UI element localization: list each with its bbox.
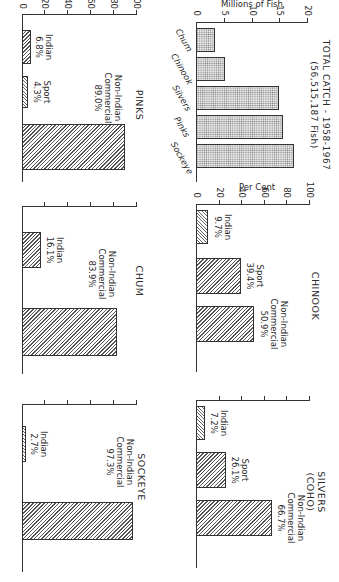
bar-chinook [196, 57, 225, 81]
tick-label: 20 [215, 176, 225, 198]
bar-chum [196, 28, 215, 52]
bar-sport [196, 258, 241, 294]
chum-title: CHUM [134, 236, 145, 326]
tick-label: 0 [192, 0, 202, 16]
tick-60 [264, 396, 265, 401]
tick-60 [264, 200, 265, 205]
bar-sockeye [196, 144, 294, 168]
category-label-sockeye: Sockeye [168, 138, 197, 178]
tick-label: 80 [282, 176, 292, 198]
tick-60 [90, 202, 91, 207]
y-axis [22, 206, 137, 207]
label-indian: Indian 9.7% [213, 206, 233, 248]
bar-sport [196, 452, 226, 488]
tick-20 [219, 396, 220, 401]
tick-label: 0 [18, 0, 28, 9]
bar-indian [196, 406, 205, 440]
tick-label: 100 [132, 0, 142, 9]
label-non-indian-commercial: Non-Indian Commercial 50.9% [259, 296, 289, 352]
label-non-indian-commercial: Non-Indian Commercial 97.3% [105, 434, 135, 490]
tick-60 [90, 400, 91, 405]
bar-silvers [196, 86, 279, 110]
bar-sport [22, 76, 28, 108]
tick-20 [44, 202, 45, 207]
tick-40 [241, 396, 242, 401]
tick-100 [136, 202, 137, 207]
sockeye-chart: SOCKEYE Indian 2.7% Non-Indian Commercia… [0, 392, 149, 582]
tick-label: 100 [305, 176, 315, 198]
tick-100 [136, 400, 137, 405]
pinks-title: PINKS [134, 60, 145, 150]
y-axis [22, 404, 137, 405]
chum-chart: CHUM Indian 16.1% Non-Indian Commercial … [0, 196, 149, 386]
y-axis-title: Millions of Fish [221, 0, 283, 9]
label-indian: Indian 7.2% [209, 402, 229, 444]
y-axis-title: Per Cent [63, 0, 99, 2]
label-non-indian-commercial: Non-Indian Commercial 83.9% [87, 246, 117, 302]
y-axis-title: Per Cent [239, 182, 275, 192]
tick-label: 20 [303, 0, 313, 16]
tick-40 [241, 200, 242, 205]
y-axis [22, 14, 137, 15]
tick-40 [67, 400, 68, 405]
tick-80 [286, 200, 287, 205]
tick-15 [279, 18, 280, 23]
tick-100 [309, 396, 310, 401]
total-catch-chart: TOTAL CATCH - 1958-1967 (56,515,187 Fish… [169, 0, 339, 190]
bar-non-indian-commercial [22, 124, 125, 170]
tick-100 [136, 10, 137, 15]
chinook-title: CHINOOK [310, 236, 321, 356]
bar-indian [196, 210, 208, 244]
tick-label: 20 [40, 0, 50, 9]
label-sport: Sport 4.3% [32, 72, 52, 112]
tick-20 [219, 200, 220, 205]
tick-label: 0 [192, 176, 202, 198]
total-catch-subtitle: (56,515,187 Fish) [308, 20, 319, 190]
chinook-chart: CHINOOK 100 80 60 40 20 0 Per Cent India… [189, 196, 339, 386]
label-sport: Sport 39.4% [245, 254, 265, 298]
tick-label: 80 [109, 0, 119, 9]
tick-60 [90, 10, 91, 15]
label-sport: Sport 26.1% [230, 448, 250, 492]
tick-80 [113, 400, 114, 405]
label-indian: Indian 16.1% [45, 228, 65, 272]
bar-indian [22, 232, 41, 268]
label-non-indian-commercial: Non-Indian Commercial 66.7% [276, 490, 306, 546]
tick-20 [44, 10, 45, 15]
label-non-indian-commercial: Non-Indian Commercial 89.0% [93, 70, 123, 126]
bar-indian [22, 30, 31, 64]
silvers-title: SILVERS (COHO) [305, 432, 327, 552]
pinks-chart: PINKS 100 80 60 40 20 0 Per Cent Indian … [0, 0, 149, 190]
sockeye-title: SOCKEYE [136, 432, 147, 522]
tick-20 [307, 18, 308, 23]
tick-80 [113, 202, 114, 207]
tick-10 [252, 18, 253, 23]
tick-100 [309, 200, 310, 205]
label-indian: Indian 2.7% [29, 422, 49, 466]
bar-pinks [196, 115, 283, 139]
label-indian: Indian 6.8% [34, 26, 54, 68]
bar-non-indian-commercial [196, 500, 272, 536]
tick-80 [286, 396, 287, 401]
bar-non-indian-commercial [22, 308, 117, 356]
tick-40 [67, 202, 68, 207]
bar-non-indian-commercial [22, 502, 133, 540]
tick-20 [44, 400, 45, 405]
bar-indian [22, 426, 26, 462]
bar-non-indian-commercial [196, 306, 254, 342]
total-catch-title: TOTAL CATCH - 1958-1967 [320, 20, 331, 190]
tick-40 [67, 10, 68, 15]
tick-5 [224, 18, 225, 23]
silvers-chart: SILVERS (COHO) Indian 7.2% Sport 26.1% N… [189, 392, 339, 582]
chart-figure: TOTAL CATCH - 1958-1967 (56,515,187 Fish… [0, 0, 339, 582]
tick-80 [113, 10, 114, 15]
